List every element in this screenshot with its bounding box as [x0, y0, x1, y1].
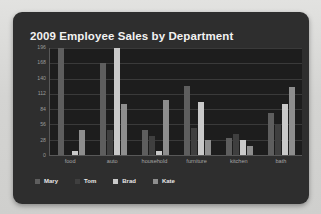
bar[interactable]	[149, 136, 155, 155]
legend-item[interactable]: Tom	[75, 178, 96, 184]
bar-groups	[50, 48, 302, 155]
legend-item[interactable]: Kate	[153, 178, 175, 184]
bar[interactable]	[191, 128, 197, 155]
bar[interactable]	[226, 138, 232, 155]
bar[interactable]	[275, 124, 281, 155]
bar[interactable]	[163, 100, 169, 155]
bar-group	[260, 48, 302, 155]
bar[interactable]	[72, 151, 78, 155]
legend-swatch-icon	[153, 179, 158, 184]
bar[interactable]	[58, 48, 64, 155]
y-axis-tick-label: 168	[37, 61, 46, 66]
y-axis-tick-label: 112	[38, 92, 46, 97]
y-axis-tick-label: 0	[43, 153, 46, 158]
bar[interactable]	[142, 130, 148, 155]
legend-label: Tom	[84, 178, 96, 184]
x-axis-label: food	[49, 158, 91, 164]
x-axis-label: bath	[260, 158, 302, 164]
bar[interactable]	[121, 104, 127, 155]
legend-swatch-icon	[75, 179, 80, 184]
x-axis-category-labels: foodautohouseholdfurniturekitchenbath	[49, 158, 302, 164]
legend-item[interactable]: Mary	[35, 178, 58, 184]
x-axis-label: furniture	[176, 158, 218, 164]
bar-group	[218, 48, 260, 155]
legend-label: Mary	[44, 178, 58, 184]
y-axis-tick-label: 56	[40, 123, 46, 128]
bar[interactable]	[205, 140, 211, 155]
legend-swatch-icon	[113, 179, 118, 184]
bar-group	[176, 48, 218, 155]
plot-wrapper: 0285684112140168196	[30, 48, 302, 156]
bar[interactable]	[79, 130, 85, 155]
bar[interactable]	[114, 48, 120, 155]
bar[interactable]	[107, 130, 113, 155]
legend-label: Brad	[122, 178, 136, 184]
x-axis-label: auto	[91, 158, 133, 164]
legend-swatch-icon	[35, 179, 40, 184]
bar[interactable]	[289, 87, 295, 155]
chart-legend: MaryTomBradKate	[23, 178, 175, 184]
y-axis-tick-label: 140	[37, 76, 46, 81]
legend-label: Kate	[162, 178, 175, 184]
bar[interactable]	[247, 146, 253, 155]
y-axis-tick-label: 196	[37, 45, 46, 50]
y-axis: 0285684112140168196	[30, 48, 48, 156]
bar[interactable]	[282, 104, 288, 155]
bar-group	[92, 48, 134, 155]
bar[interactable]	[233, 134, 239, 155]
chart-title: 2009 Employee Sales by Department	[30, 30, 233, 42]
y-axis-tick-label: 84	[40, 107, 46, 112]
bar[interactable]	[268, 113, 274, 155]
chart-card: 2009 Employee Sales by Department 028568…	[13, 12, 309, 204]
bar[interactable]	[184, 86, 190, 155]
plot-area	[49, 48, 302, 156]
bar-group	[134, 48, 176, 155]
y-axis-tick-label: 28	[40, 138, 46, 143]
bar[interactable]	[198, 102, 204, 156]
bar[interactable]	[240, 140, 246, 155]
x-axis-label: kitchen	[218, 158, 260, 164]
bar-group	[50, 48, 92, 155]
x-axis-label: household	[133, 158, 175, 164]
bar[interactable]	[100, 63, 106, 155]
bar[interactable]	[156, 151, 162, 155]
legend-item[interactable]: Brad	[113, 178, 136, 184]
